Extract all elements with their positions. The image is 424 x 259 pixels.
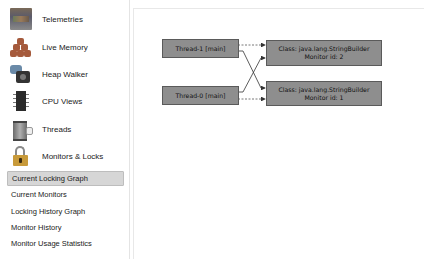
monitor-id: Monitor id: 1	[304, 94, 343, 102]
thread-label: Thread-1 [main]	[175, 45, 225, 53]
thread-label: Thread-0 [main]	[175, 92, 225, 100]
monitor-class: Class: java.lang.StringBuilder	[279, 86, 370, 94]
thread-node[interactable]: Thread-1 [main]	[162, 39, 239, 58]
monitor-class: Class: java.lang.StringBuilder	[279, 45, 370, 53]
owns-edge	[238, 51, 265, 88]
locking-graph: Thread-1 [main] Thread-0 [main] Class: j…	[0, 0, 424, 259]
monitor-node[interactable]: Class: java.lang.StringBuilder Monitor i…	[266, 81, 382, 106]
owns-edge	[238, 58, 265, 92]
thread-node[interactable]: Thread-0 [main]	[162, 86, 239, 105]
monitor-node[interactable]: Class: java.lang.StringBuilder Monitor i…	[266, 40, 382, 66]
monitor-id: Monitor id: 2	[304, 53, 343, 61]
